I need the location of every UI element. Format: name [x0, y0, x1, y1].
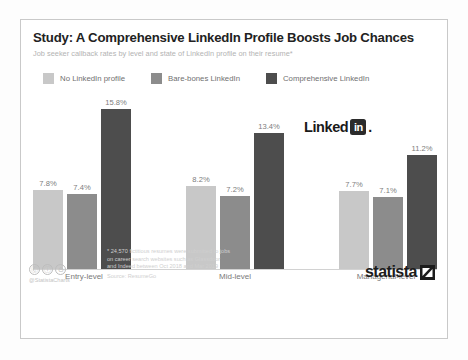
creative-commons-icons: Ⓒ ⓘ ⊝	[29, 264, 70, 275]
legend-item-bare-bones-linkedin[interactable]: Bare-bones LinkedIn	[151, 73, 240, 84]
bar-value-label: 11.2%	[412, 144, 433, 153]
footnote-line-1: * 24,570 fictitious resumes were submitt…	[107, 248, 230, 256]
legend-swatch-icon	[43, 73, 54, 84]
bar[interactable]	[67, 194, 97, 269]
footnote: * 24,570 fictitious resumes were submitt…	[107, 248, 230, 271]
cc-nd-icon: ⊝	[55, 264, 66, 275]
bar-value-label: 8.2%	[192, 175, 209, 184]
footnote-line-3: and Indeed between Oct 2018 and Mar 2019	[107, 263, 230, 271]
x-axis-tick-label: Mid-level	[184, 272, 286, 281]
legend-label: No LinkedIn profile	[60, 74, 125, 83]
linkedin-logo: Linked in .	[304, 119, 372, 135]
bar[interactable]	[33, 190, 63, 269]
social-handle: @StatistaCharts	[29, 277, 70, 283]
bar[interactable]	[373, 197, 403, 269]
bar[interactable]	[101, 109, 131, 269]
bar-slot: 7.2%	[220, 92, 250, 269]
chart-subtitle: Job seeker callback rates by level and s…	[33, 49, 435, 58]
statista-wordmark-text: statista	[365, 263, 417, 281]
legend-item-no-linkedin-profile[interactable]: No LinkedIn profile	[43, 73, 125, 84]
linkedin-wordmark-text: Linked	[304, 119, 348, 135]
legend-label: Bare-bones LinkedIn	[168, 74, 240, 83]
source-note: Source: ResumeGo	[107, 273, 156, 279]
legend-item-comprehensive-linkedin[interactable]: Comprehensive LinkedIn	[266, 73, 369, 84]
bar-value-label: 7.4%	[73, 183, 90, 192]
bar-slot: 7.1%	[373, 92, 403, 269]
bar-slot: 7.8%	[33, 92, 63, 269]
footnote-line-2: on career search websites such as Glassd…	[107, 256, 230, 264]
bar-slot: 13.4%	[254, 92, 284, 269]
bar-value-label: 7.7%	[345, 180, 362, 189]
bar-value-label: 7.1%	[379, 186, 396, 195]
attribution-block: Ⓒ ⓘ ⊝ @StatistaCharts	[29, 264, 70, 283]
legend-swatch-icon	[151, 73, 162, 84]
bar-value-label: 13.4%	[258, 122, 280, 131]
cc-by-icon: ⓘ	[42, 264, 53, 275]
bar-slot: 11.2%	[407, 92, 437, 269]
bar-value-label: 7.8%	[39, 179, 56, 188]
bar-group-mid-level: 8.2% 7.2% 13.4%	[186, 92, 284, 269]
bar[interactable]	[254, 133, 284, 269]
chart-header: Study: A Comprehensive LinkedIn Profile …	[33, 30, 435, 58]
bar-value-label: 15.8%	[105, 98, 127, 107]
chart-legend: No LinkedIn profile Bare-bones LinkedIn …	[43, 73, 369, 84]
legend-swatch-icon	[266, 73, 277, 84]
infographic-card: Study: A Comprehensive LinkedIn Profile …	[20, 19, 448, 339]
bar-slot: 8.2%	[186, 92, 216, 269]
linkedin-dot: .	[368, 119, 372, 135]
cc-icon: Ⓒ	[29, 264, 40, 275]
screenshot-page: Study: A Comprehensive LinkedIn Profile …	[0, 0, 468, 360]
bar-groups: 7.8% 7.4% 15.8% 8.2%	[33, 92, 437, 269]
statista-logo: statista	[365, 263, 435, 281]
chart-plot-area: 7.8% 7.4% 15.8% 8.2%	[33, 92, 437, 270]
statista-arrow-mark-icon	[420, 265, 435, 280]
bar-group-entry-level: 7.8% 7.4% 15.8%	[33, 92, 131, 269]
page-title: Study: A Comprehensive LinkedIn Profile …	[33, 30, 435, 45]
bar-slot: 15.8%	[101, 92, 131, 269]
linkedin-badge-icon: in	[350, 119, 366, 135]
bar[interactable]	[407, 155, 437, 269]
legend-label: Comprehensive LinkedIn	[283, 74, 369, 83]
bar-slot: 7.4%	[67, 92, 97, 269]
bar[interactable]	[339, 191, 369, 269]
bar-value-label: 7.2%	[226, 185, 243, 194]
